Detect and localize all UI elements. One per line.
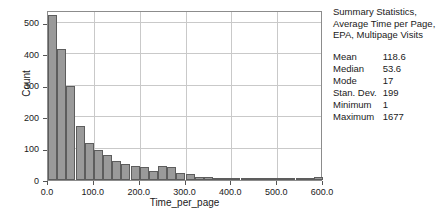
histogram-bar (296, 178, 305, 180)
plot-area (47, 11, 322, 181)
stat-row: Median53.6 (333, 63, 406, 75)
stat-row: Maximum1677 (333, 111, 406, 123)
histogram-bar (167, 167, 176, 180)
y-tick-label: 300 (13, 82, 39, 91)
summary-title-line-1: Average Time per Page, (333, 18, 445, 30)
histogram-bar (48, 15, 57, 180)
histogram-bar (213, 178, 222, 180)
histogram-bar (186, 174, 195, 180)
histogram-bar (268, 178, 277, 180)
histogram-bar (112, 161, 121, 180)
histogram-bar (222, 178, 231, 180)
y-tick-label: 0 (13, 177, 39, 186)
stat-value: 1677 (383, 111, 406, 123)
x-tick-mark (230, 181, 231, 185)
gridline-vertical (186, 12, 187, 180)
stat-name: Maximum (333, 111, 383, 123)
histogram-bar (277, 178, 286, 180)
histogram-bar (241, 178, 250, 180)
stat-row: Mode17 (333, 75, 406, 87)
stat-value: 17 (383, 75, 406, 87)
histogram-bar (76, 126, 85, 180)
plot-inner (48, 12, 321, 180)
histogram-bar (85, 143, 94, 180)
x-tick-mark (322, 181, 323, 185)
summary-title-line-2: EPA, Multipage Visits (333, 29, 445, 41)
stat-value: 53.6 (383, 63, 406, 75)
x-tick-mark (139, 181, 140, 185)
gridline-horizontal (48, 116, 321, 117)
histogram-bar (103, 155, 112, 180)
histogram-bar (121, 164, 130, 180)
stat-row: Mean118.6 (333, 51, 406, 63)
stat-name: Minimum (333, 99, 383, 111)
y-tick-label: 200 (13, 114, 39, 123)
histogram-bar (286, 178, 295, 180)
summary-stats-table: Mean118.6Median53.6Mode17Stan. Dev.199Mi… (333, 51, 406, 123)
x-tick-label: 100.0 (73, 188, 113, 197)
summary-statistics-panel: Summary Statistics,Average Time per Page… (333, 6, 445, 123)
gridline-horizontal (48, 22, 321, 23)
histogram-bar (57, 49, 66, 180)
gridline-vertical (231, 12, 232, 180)
gridline-horizontal (48, 53, 321, 54)
histogram-bar (131, 166, 140, 180)
histogram-bar (314, 177, 323, 180)
x-tick-label: 600.0 (302, 188, 342, 197)
x-tick-label: 300.0 (165, 188, 205, 197)
y-tick-label: 100 (13, 145, 39, 154)
x-tick-label: 500.0 (256, 188, 296, 197)
stat-value: 118.6 (383, 51, 406, 63)
histogram-bar (305, 178, 314, 180)
histogram-bar (204, 177, 213, 180)
stat-name: Mean (333, 51, 383, 63)
histogram-bar (149, 171, 158, 180)
x-tick-mark (47, 181, 48, 185)
histogram-bar (94, 150, 103, 180)
histogram-bar (195, 177, 204, 180)
stat-row: Stan. Dev.199 (333, 87, 406, 99)
histogram-bar (140, 167, 149, 180)
histogram-bar (231, 178, 240, 180)
x-tick-label: 400.0 (210, 188, 250, 197)
x-tick-label: 0.0 (27, 188, 67, 197)
summary-title: Summary Statistics,Average Time per Page… (333, 6, 445, 41)
x-tick-mark (93, 181, 94, 185)
stat-name: Mode (333, 75, 383, 87)
stat-row: Minimum1 (333, 99, 406, 111)
gridline-vertical (277, 12, 278, 180)
histogram-bar (176, 173, 185, 180)
stat-name: Stan. Dev. (333, 87, 383, 99)
stat-value: 199 (383, 87, 406, 99)
histogram-figure: Count 0100200300400500 0.0100.0200.0300.… (0, 0, 447, 219)
summary-title-line-0: Summary Statistics, (333, 6, 445, 18)
gridline-horizontal (48, 85, 321, 86)
histogram-bar (259, 178, 268, 180)
y-tick-label: 400 (13, 51, 39, 60)
x-axis-label: Time_per_page (47, 197, 322, 208)
histogram-bar (66, 86, 75, 180)
stat-value: 1 (383, 99, 406, 111)
stat-name: Median (333, 63, 383, 75)
gridline-vertical (140, 12, 141, 180)
histogram-bar (158, 166, 167, 180)
y-tick-label: 500 (13, 19, 39, 28)
x-tick-mark (276, 181, 277, 185)
x-tick-mark (185, 181, 186, 185)
histogram-bar (250, 178, 259, 180)
x-tick-label: 200.0 (119, 188, 159, 197)
